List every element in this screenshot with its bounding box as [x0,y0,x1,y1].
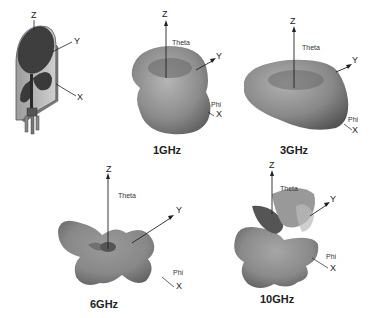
z-axis-label: Z [290,17,296,26]
phi-label: Phi [173,269,183,276]
z-axis-label: Z [162,10,168,19]
frequency-label-6ghz: 6GHz [90,299,118,310]
x-axis-label: X [176,282,182,291]
theta-label: Theta [280,185,298,192]
antenna-y-label: Y [74,37,80,46]
antenna-z-label: Z [31,11,37,20]
pattern-1ghz: Z Theta Y Phi X 1GHz [110,0,240,160]
radiation-pattern-3ghz [240,0,374,160]
phi-label: Phi [348,116,358,123]
pattern-3ghz: Z Theta Y Phi X 3GHz [240,0,374,160]
y-axis-label: Y [352,56,358,65]
x-axis-label: X [216,110,222,119]
theta-label: Theta [172,39,190,46]
theta-label: Theta [118,192,136,199]
x-axis-label: X [330,264,336,273]
radiation-pattern-1ghz [110,0,240,160]
antenna-geometry: Z Y X [0,0,110,140]
phi-label: Phi [211,101,221,108]
antenna-drawing [0,0,110,140]
pattern-10ghz: Z Theta Y Phi X 10GHz [200,150,374,318]
z-axis-label: Z [106,165,112,174]
radiation-pattern-6ghz [40,155,200,315]
y-axis-label: Y [330,195,336,204]
antenna-x-label: X [77,93,83,102]
phi-label: Phi [326,253,336,260]
theta-label: Theta [302,44,320,51]
frequency-label-10ghz: 10GHz [260,294,294,305]
y-axis-label: Y [216,52,222,61]
pattern-6ghz: Z Theta Y Phi X 6GHz [40,155,200,315]
x-axis-label: X [352,126,358,135]
z-axis-label: Z [269,161,275,170]
y-axis-label: Y [176,206,182,215]
